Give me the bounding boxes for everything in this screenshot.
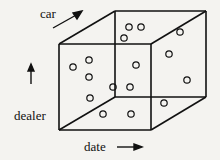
- dealer-axis-label: dealer: [14, 109, 46, 122]
- data-point: [126, 24, 132, 30]
- data-point: [184, 77, 190, 83]
- axis-arrows: [28, 11, 142, 150]
- data-point: [86, 74, 92, 80]
- car-axis-label: car: [40, 7, 56, 20]
- date-axis-label: date: [84, 140, 106, 153]
- dealer-arrowhead-icon: [28, 64, 34, 71]
- data-point: [100, 111, 106, 117]
- data-point: [127, 84, 133, 90]
- data-point: [86, 57, 92, 63]
- cube-edge: [151, 11, 206, 44]
- data-point: [177, 29, 183, 35]
- data-cube-diagram: [0, 0, 220, 160]
- data-point: [87, 95, 93, 101]
- data-point: [133, 62, 139, 68]
- data-point: [128, 111, 134, 117]
- data-point: [121, 35, 127, 41]
- data-point: [70, 64, 76, 70]
- data-point: [166, 51, 172, 57]
- cube-wireframe: [59, 11, 206, 130]
- data-point: [138, 24, 144, 30]
- cube-edge: [59, 11, 115, 44]
- cube-edge: [151, 97, 206, 130]
- date-arrowhead-icon: [134, 144, 142, 150]
- data-points: [70, 24, 190, 117]
- data-point: [161, 100, 167, 106]
- car-arrowhead-icon: [73, 11, 82, 19]
